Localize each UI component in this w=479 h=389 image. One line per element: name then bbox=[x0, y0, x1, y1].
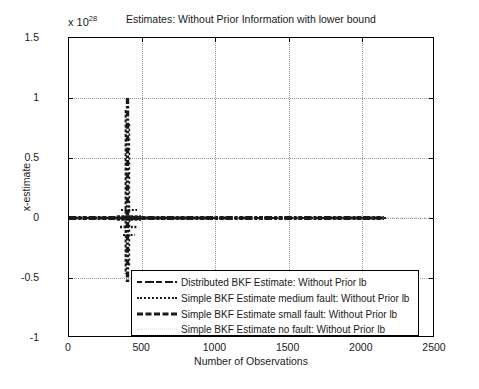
y-tick-label: 0.5 bbox=[24, 151, 39, 163]
legend-swatch-dotted bbox=[137, 293, 177, 303]
x-tick-label: 0 bbox=[65, 341, 71, 353]
legend-swatch-dash-dot bbox=[137, 277, 177, 287]
legend-item-small-fault[interactable]: Simple BKF Estimate small fault: Without… bbox=[132, 306, 397, 322]
x-tick-label: 1000 bbox=[203, 341, 226, 353]
legend-swatch-dashed bbox=[137, 309, 177, 319]
y-tick-label: -1 bbox=[30, 331, 39, 343]
figure-canvas: x 1028 Estimates: Without Prior Informat… bbox=[0, 0, 479, 389]
y-tick-label: 1 bbox=[33, 91, 39, 103]
x-tick-label: 500 bbox=[132, 341, 150, 353]
x-axis-title: Number of Observations bbox=[194, 355, 308, 367]
legend-label: Distributed BKF Estimate: Without Prior … bbox=[181, 277, 367, 288]
legend-item-medium-fault[interactable]: Simple BKF Estimate medium fault: Withou… bbox=[132, 290, 409, 306]
legend-item-distributed-bkf[interactable]: Distributed BKF Estimate: Without Prior … bbox=[132, 274, 367, 290]
chart-title: Estimates: Without Prior Information wit… bbox=[68, 13, 434, 25]
legend-swatch-faint bbox=[137, 324, 177, 334]
legend-box[interactable]: Distributed BKF Estimate: Without Prior … bbox=[131, 270, 419, 336]
y-tick-label: -0.5 bbox=[21, 271, 39, 283]
legend-label: Simple BKF Estimate no fault: Without Pr… bbox=[181, 324, 385, 335]
x-tick-label: 1500 bbox=[276, 341, 299, 353]
y-tick-label: 1.5 bbox=[24, 31, 39, 43]
y-tick-label: 0 bbox=[33, 211, 39, 223]
legend-label: Simple BKF Estimate medium fault: Withou… bbox=[181, 293, 409, 304]
x-tick-label: 2500 bbox=[422, 341, 445, 353]
y-axis-title: x-estimate bbox=[20, 163, 32, 211]
transient-spike bbox=[117, 98, 141, 284]
legend-label: Simple BKF Estimate small fault: Without… bbox=[181, 309, 397, 320]
legend-item-no-fault[interactable]: Simple BKF Estimate no fault: Without Pr… bbox=[132, 321, 385, 336]
x-tick-label: 2000 bbox=[349, 341, 372, 353]
